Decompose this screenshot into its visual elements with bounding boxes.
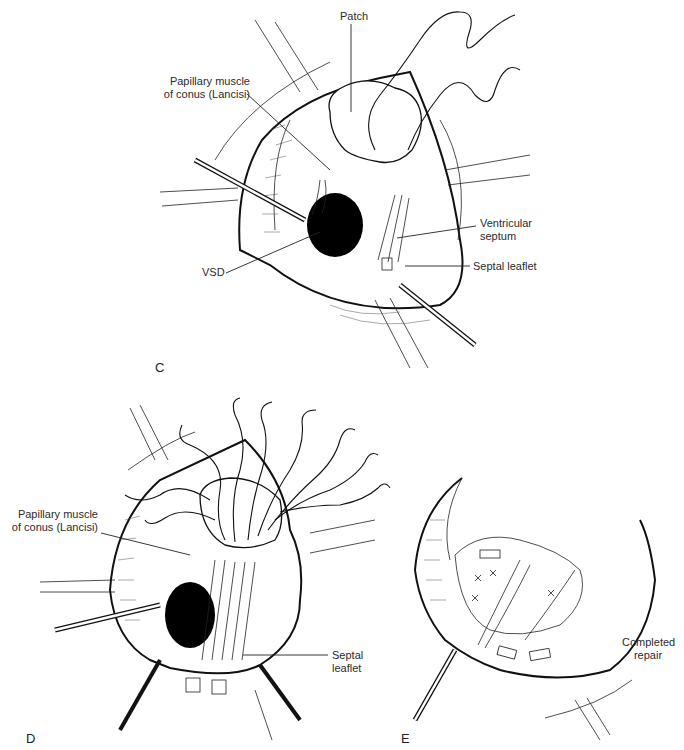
tissue-hatching <box>118 516 140 620</box>
pledget <box>480 550 500 558</box>
leader-papillary <box>247 94 330 170</box>
label-completed-repair: Completed repair <box>622 636 674 662</box>
panel-letter-c: C <box>155 360 164 375</box>
suture-strand <box>280 484 390 512</box>
leader-papillary <box>101 533 190 555</box>
stay-suture <box>130 408 155 460</box>
repaired-patch <box>455 537 583 634</box>
label-ventricular-septum: Ventricular septum <box>480 217 532 243</box>
pledget <box>186 678 200 692</box>
label-line: septum <box>480 230 532 243</box>
stay-suture <box>140 405 168 460</box>
incision-edge-arc <box>545 680 632 718</box>
stay-suture <box>160 188 238 192</box>
tissue-hatching <box>424 520 446 600</box>
ventriculotomy-outline <box>415 478 655 678</box>
label-septal-leaflet-c: Septal leaflet <box>473 260 537 273</box>
label-line: Papillary muscle <box>10 508 98 521</box>
label-line: of conus (Lancisi) <box>160 88 250 101</box>
panel-letter-d: D <box>26 731 35 746</box>
incision-edge-arc <box>128 432 195 470</box>
inner-wall <box>274 120 290 230</box>
suture-strand <box>125 489 210 500</box>
panel-d-drawing <box>40 398 390 740</box>
stay-suture <box>255 690 272 740</box>
stay-suture <box>375 300 410 368</box>
surgical-illustration <box>0 0 684 750</box>
label-line: of conus (Lancisi) <box>10 521 98 534</box>
stay-suture <box>310 540 375 553</box>
label-line: repair <box>622 649 674 662</box>
patch-shape <box>329 81 421 163</box>
retractor-instrument <box>260 665 300 720</box>
stay-suture <box>310 520 375 533</box>
retractor-highlight <box>55 605 160 630</box>
label-vsd: VSD <box>202 266 225 279</box>
label-line: Ventricular <box>480 217 532 230</box>
stay-suture <box>575 700 600 740</box>
chordae <box>378 195 409 262</box>
leader-ventricular-septum <box>397 226 476 238</box>
panel-letter-e: E <box>401 731 410 746</box>
label-septal-leaflet-d: Septal leaflet <box>332 649 363 675</box>
pledget <box>529 648 550 660</box>
label-papillary-muscle-d: Papillary muscle of conus (Lancisi) <box>10 508 98 534</box>
pledget <box>382 258 392 270</box>
label-line: Completed <box>622 636 674 649</box>
retractor-highlight <box>400 285 475 345</box>
label-line: Papillary muscle <box>160 75 250 88</box>
retractor-highlight <box>415 650 455 720</box>
panel-c-drawing <box>160 12 530 368</box>
pledget <box>212 680 226 694</box>
stay-suture <box>587 698 610 735</box>
stay-suture <box>255 20 300 92</box>
label-patch: Patch <box>340 10 368 23</box>
label-line: Septal <box>332 649 363 662</box>
label-papillary-muscle-c: Papillary muscle of conus (Lancisi) <box>160 75 250 101</box>
stay-suture <box>40 580 115 582</box>
vsd-defect <box>307 193 363 257</box>
pledget <box>497 646 517 659</box>
retractor-highlight <box>195 160 305 220</box>
patch-shape <box>200 478 282 548</box>
label-line: leaflet <box>332 662 363 675</box>
stay-suture <box>445 155 530 170</box>
tissue-hatching <box>262 125 292 232</box>
panel-e-drawing <box>415 478 655 740</box>
stay-suture <box>162 200 238 206</box>
retractor-instrument <box>120 660 160 730</box>
